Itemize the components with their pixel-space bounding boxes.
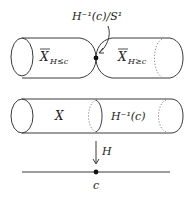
cylinder-left-end-ellipse bbox=[11, 99, 33, 133]
top-figure bbox=[11, 26, 183, 78]
cylinder-middle-dotted-back bbox=[89, 100, 97, 132]
cylinder-left-label: X bbox=[54, 109, 64, 123]
map-label: H bbox=[101, 145, 112, 158]
right-region-label: X H≥c bbox=[117, 49, 147, 66]
left-capsule-end-ellipse bbox=[11, 38, 33, 76]
left-region-sub: H≤c bbox=[49, 57, 69, 66]
map-arrow bbox=[93, 141, 99, 164]
cylinder-right-dotted bbox=[159, 100, 167, 132]
left-region-label: X H≤c bbox=[39, 49, 69, 66]
right-region-sub: H≥c bbox=[127, 57, 147, 66]
base-point-dot bbox=[94, 170, 99, 175]
diagram-canvas: H⁻¹(c)/S¹ X H≤c X H≥c X H⁻¹(c) H c bbox=[0, 0, 191, 197]
middle-figure bbox=[11, 99, 183, 133]
base-point-label: c bbox=[93, 179, 99, 192]
critical-point-dot bbox=[94, 56, 99, 61]
right-region-main: X bbox=[117, 50, 127, 64]
point-label: H⁻¹(c)/S¹ bbox=[71, 10, 122, 23]
cylinder-right-label: H⁻¹(c) bbox=[110, 110, 146, 123]
cylinder-middle-front bbox=[96, 100, 102, 132]
right-capsule-dotted-ellipse bbox=[155, 39, 163, 77]
left-region-main: X bbox=[39, 50, 49, 64]
